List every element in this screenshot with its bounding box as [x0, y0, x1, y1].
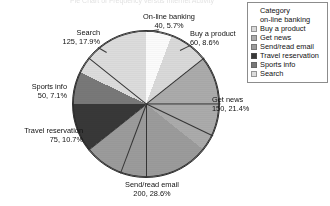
legend-item[interactable]: Send/read email — [251, 42, 324, 51]
legend-item-label: Travel reservation — [260, 51, 319, 60]
chart-title: Pie Chart of Frequency versus Internet A… — [34, 0, 250, 6]
legend-item[interactable]: on-line banking — [251, 15, 324, 24]
slice-label-online-banking: On-line banking 40, 5.7% — [130, 13, 208, 30]
slice-label-buy-product: Buy a product 60, 8.6% — [190, 30, 236, 47]
slice-label-sports-name: Sports info — [32, 82, 67, 91]
slice-label-send-email-name: Send/read email — [125, 180, 179, 189]
legend-item[interactable]: Sports info — [251, 60, 324, 69]
legend-item[interactable]: Buy a product — [251, 24, 324, 33]
slice-label-get-news-value: 150, 21.4% — [212, 105, 249, 114]
legend-item[interactable]: Search — [251, 69, 324, 78]
slice-divider-online-banking — [146, 104, 147, 178]
slice-label-sports-value: 50, 7.1% — [4, 92, 67, 101]
slice-label-send-email: Send/read email 200, 28.6% — [106, 181, 198, 198]
legend-items: on-line bankingBuy a productGet newsSend… — [251, 15, 324, 78]
legend-swatch-icon — [251, 17, 257, 23]
legend-item-label: Sports info — [260, 60, 295, 69]
slice-label-search-value: 125, 17.9% — [27, 38, 100, 47]
legend-item-label: Get news — [260, 33, 291, 42]
slice-label-send-email-value: 200, 28.6% — [106, 190, 198, 199]
legend-item-label: on-line banking — [260, 15, 310, 24]
slice-label-search-name: Search — [77, 28, 100, 37]
slice-label-get-news: Get news 150, 21.4% — [212, 96, 249, 113]
slice-label-sports: Sports info 50, 7.1% — [4, 83, 67, 100]
slice-label-travel-name: Travel reservation — [24, 126, 83, 135]
legend-item-label: Search — [260, 69, 283, 78]
legend-header: Category — [251, 6, 324, 15]
slice-label-buy-product-value: 60, 8.6% — [190, 39, 236, 48]
slice-label-buy-product-name: Buy a product — [190, 29, 236, 38]
legend-swatch-icon — [251, 62, 257, 68]
legend-item-label: Send/read email — [260, 42, 314, 51]
legend-swatch-icon — [251, 44, 257, 50]
legend-item[interactable]: Get news — [251, 33, 324, 42]
slice-label-online-banking-name: On-line banking — [143, 12, 195, 21]
slice-divider-sports — [146, 104, 220, 105]
slice-label-travel-value: 75, 10.7% — [0, 136, 83, 145]
legend-swatch-icon — [251, 26, 257, 32]
legend: Category on-line bankingBuy a productGet… — [247, 2, 328, 83]
slice-label-search: Search 125, 17.9% — [27, 29, 100, 46]
legend-swatch-icon — [251, 71, 257, 77]
legend-item-label: Buy a product — [260, 24, 306, 33]
legend-swatch-icon — [251, 35, 257, 41]
pie-chart — [72, 30, 220, 178]
slice-label-travel: Travel reservation 75, 10.7% — [0, 127, 83, 144]
legend-item[interactable]: Travel reservation — [251, 51, 324, 60]
legend-swatch-icon — [251, 53, 257, 59]
slice-label-get-news-name: Get news — [212, 95, 243, 104]
